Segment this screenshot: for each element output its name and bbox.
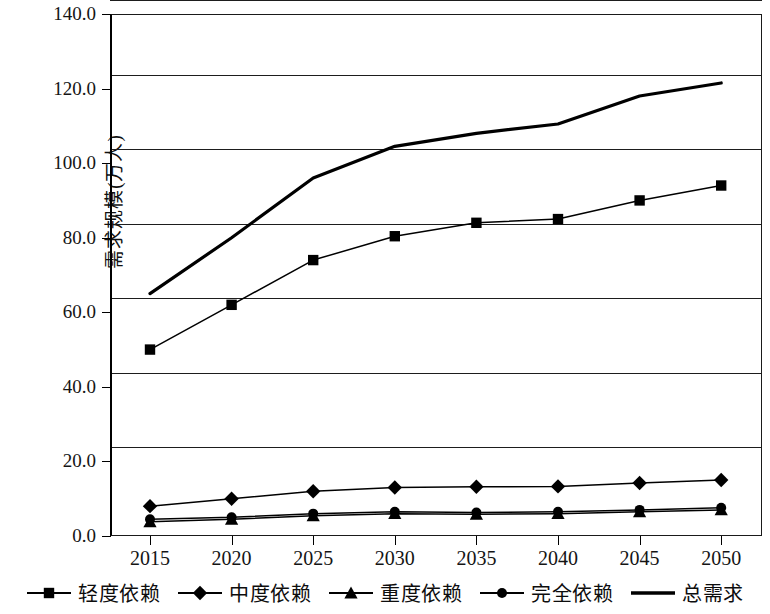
- data-point-circle: [553, 507, 563, 517]
- legend-marker-diamond-icon: [177, 584, 223, 602]
- series-line: [150, 186, 721, 350]
- legend-label: 中度依赖: [229, 578, 311, 607]
- data-point-square: [553, 214, 563, 224]
- data-point-circle: [145, 514, 155, 524]
- data-point-square: [716, 180, 726, 190]
- legend-marker-circle-icon: [479, 584, 525, 602]
- legend-label: 完全依赖: [531, 578, 613, 607]
- data-point-circle: [308, 509, 318, 519]
- legend-label: 重度依赖: [380, 578, 462, 607]
- legend-item-circle[interactable]: 完全依赖: [479, 578, 613, 607]
- series-square: [145, 180, 727, 354]
- data-point-square: [471, 218, 481, 228]
- data-point-square: [226, 300, 236, 310]
- legend-marker-square-icon: [26, 584, 72, 602]
- data-point-square: [634, 195, 644, 205]
- legend-item-triangle[interactable]: 重度依赖: [328, 578, 462, 607]
- legend-marker-line-icon: [630, 584, 676, 602]
- legend-item-line[interactable]: 总需求: [630, 578, 744, 607]
- data-point-square: [44, 587, 54, 597]
- data-point-diamond: [388, 480, 402, 494]
- data-point-circle: [716, 503, 726, 513]
- data-point-diamond: [714, 473, 728, 487]
- series-layer: [0, 0, 770, 614]
- legend-label: 总需求: [682, 578, 744, 607]
- data-point-diamond: [469, 480, 483, 494]
- data-point-diamond: [143, 499, 157, 513]
- data-point-circle: [390, 507, 400, 517]
- data-point-square: [145, 344, 155, 354]
- data-point-diamond: [306, 484, 320, 498]
- chart-figure: 需求规模(万人) 0.020.040.060.080.0100.0120.014…: [0, 0, 770, 614]
- data-point-circle: [635, 505, 645, 515]
- series-none: [150, 83, 721, 294]
- data-point-square: [390, 231, 400, 241]
- chart-legend: 轻度依赖中度依赖重度依赖完全依赖总需求: [0, 578, 770, 607]
- data-point-diamond: [224, 492, 238, 506]
- data-point-diamond: [551, 479, 565, 493]
- legend-item-square[interactable]: 轻度依赖: [26, 578, 160, 607]
- data-point-diamond: [193, 585, 207, 599]
- data-point-circle: [471, 508, 481, 518]
- data-point-circle: [497, 588, 507, 598]
- legend-item-diamond[interactable]: 中度依赖: [177, 578, 311, 607]
- legend-marker-triangle-icon: [328, 584, 374, 602]
- data-point-circle: [227, 512, 237, 522]
- data-point-square: [308, 255, 318, 265]
- data-point-diamond: [632, 476, 646, 490]
- legend-label: 轻度依赖: [78, 578, 160, 607]
- series-line: [150, 83, 721, 294]
